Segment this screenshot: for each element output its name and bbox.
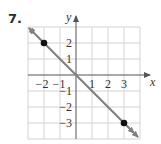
svg-text:−3: −3 — [59, 116, 72, 130]
svg-text:2: 2 — [105, 77, 111, 91]
svg-text:−1: −1 — [59, 84, 72, 98]
point-neg2-2 — [41, 40, 48, 47]
svg-text:2: 2 — [66, 36, 72, 50]
svg-text:1: 1 — [66, 52, 72, 66]
line-y-equals-neg-x — [35, 34, 134, 133]
svg-text:−2: −2 — [59, 100, 72, 114]
svg-text:3: 3 — [121, 77, 127, 91]
svg-text:−2: −2 — [36, 77, 49, 91]
y-axis-label: y — [65, 10, 72, 24]
coordinate-plane: x y −2 −1 1 2 3 2 1 −1 −2 −3 — [0, 0, 161, 144]
point-3-neg3 — [121, 120, 128, 127]
x-axis-label: x — [149, 75, 156, 89]
